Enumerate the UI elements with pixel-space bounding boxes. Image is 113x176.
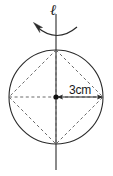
- rotation-arrow-head-icon: [34, 23, 43, 33]
- figure-canvas: [0, 0, 113, 176]
- geometry-figure: ℓ 3cm: [0, 0, 113, 176]
- circle-center-dot: [53, 94, 58, 99]
- rotation-arrow-arc: [37, 27, 77, 36]
